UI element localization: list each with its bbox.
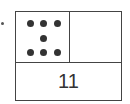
dot-1 <box>27 20 34 27</box>
margin-mark <box>1 22 4 25</box>
missing-part-cell[interactable] <box>70 12 121 63</box>
dot-4 <box>40 35 47 42</box>
dot-7 <box>54 49 61 56</box>
dot-2 <box>40 20 47 27</box>
total-cell: 11 <box>16 63 121 100</box>
number-bond-frame: 11 <box>15 11 122 101</box>
dot-5 <box>27 49 34 56</box>
dot-3 <box>54 20 61 27</box>
dot-cell <box>16 12 70 63</box>
dot-6 <box>40 49 47 56</box>
